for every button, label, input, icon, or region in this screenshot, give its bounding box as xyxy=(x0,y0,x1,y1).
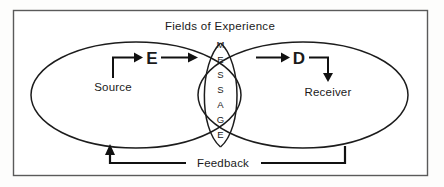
model-canvas: Fields of Experience M E S S A G E E xyxy=(0,0,444,187)
message-letter: S xyxy=(217,69,223,80)
source-label: Source xyxy=(94,81,132,93)
encoder-label: E xyxy=(146,49,157,68)
communication-model-diagram: Fields of Experience M E S S A G E E xyxy=(0,0,444,187)
message-letter: G xyxy=(217,114,224,125)
message-letter: E xyxy=(217,54,223,65)
message-letter: M xyxy=(217,39,225,50)
feedback-label: Feedback xyxy=(197,157,249,169)
receiver-label: Receiver xyxy=(305,86,352,98)
message-letter: E xyxy=(217,129,223,140)
decoder-label: D xyxy=(293,49,305,68)
diagram-title: Fields of Experience xyxy=(165,20,275,32)
message-letter: S xyxy=(217,84,223,95)
message-column: M E S S A G E xyxy=(217,39,225,140)
message-letter: A xyxy=(217,99,224,110)
